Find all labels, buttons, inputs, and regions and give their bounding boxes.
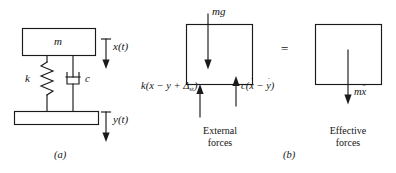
external-forces-block: [187, 25, 253, 85]
damper-label: c: [85, 73, 90, 84]
inertia-force-arrowhead: [344, 95, 351, 105]
base-displacement-label: y(t): [113, 114, 128, 125]
spring-force-label: k(x − y + Δst): [141, 81, 197, 92]
inertia-force-var-accented: ¨x: [362, 87, 367, 98]
damper-force-var2-accented: ˙y: [266, 81, 271, 92]
spring-label: k: [25, 73, 30, 84]
gravity-force-label: mg: [212, 6, 225, 17]
caption-a: (a): [54, 150, 66, 161]
damper-force-label: c(˙x − ˙y): [241, 81, 274, 92]
external-forces-caption: External forces: [185, 125, 255, 149]
external-forces-caption-line2: forces: [185, 137, 255, 149]
effective-forces-caption: Effective forces: [313, 125, 383, 149]
damper-force-var1-accented: ˙x: [249, 81, 254, 92]
inertia-force-var: x: [362, 86, 367, 97]
effective-forces-caption-line2: forces: [313, 137, 383, 149]
spring-coil: [41, 62, 53, 95]
figure-spring-mass-damper-fbd: m k c x(t) y(t) (a) mg k(x − y + Δst) c(…: [0, 0, 396, 173]
gravity-force-arrowhead: [204, 60, 211, 70]
damper-force-var2: y: [266, 80, 271, 91]
inertia-force-mass: m: [354, 86, 362, 97]
caption-b: (b): [283, 150, 295, 161]
external-forces-caption-line1: External: [185, 125, 255, 137]
damper-force-arrowhead: [232, 76, 239, 86]
mass-label: m: [54, 36, 62, 47]
damper-force-prefix: c(: [241, 80, 249, 91]
spring-force-prefix: k(x − y + Δ: [141, 80, 189, 91]
inertia-force-label: m¨x: [354, 87, 366, 98]
damper-force-suffix: ): [271, 80, 275, 91]
spring-force-suffix: ): [194, 80, 198, 91]
base-platform: [15, 112, 99, 125]
spring-force-arrowhead: [196, 84, 203, 94]
equals-sign: =: [281, 42, 288, 55]
mass-displacement-arrowhead: [102, 60, 109, 70]
mass-displacement-label: x(t): [113, 41, 128, 52]
base-displacement-arrowhead: [102, 133, 109, 143]
damper-force-var1: x: [249, 80, 254, 91]
damper-force-minus: −: [254, 80, 266, 91]
effective-forces-caption-line1: Effective: [313, 125, 383, 137]
